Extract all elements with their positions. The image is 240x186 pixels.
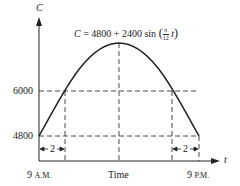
interval-label-left: 2 — [50, 144, 55, 154]
x-axis-var: t — [224, 155, 227, 165]
formula: C = 4800 + 2400 sin (π12 t) — [74, 27, 178, 42]
interval-label-right: 2 — [183, 144, 188, 154]
sine-curve — [39, 43, 199, 136]
y-axis-arrow-icon — [36, 17, 42, 26]
x-tick-end: 9 P.M. — [187, 170, 209, 180]
y-tick-6000: 6000 — [13, 86, 33, 96]
x-axis-arrow-icon — [211, 158, 220, 164]
x-tick-start: 9 A.M. — [27, 170, 51, 180]
x-axis-label: Time — [108, 170, 129, 180]
y-tick-4800: 4800 — [13, 131, 33, 141]
y-axis-label: C — [36, 3, 43, 13]
